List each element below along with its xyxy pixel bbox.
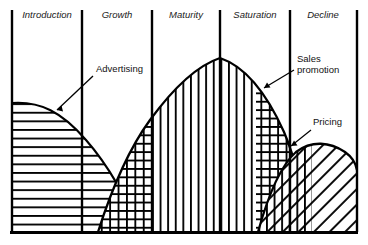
pricing-label: Pricing <box>313 116 342 127</box>
sales-promotion-label-line1: Sales <box>297 53 321 64</box>
stage-label-introduction: Introduction <box>22 9 72 20</box>
stage-label-decline: Decline <box>307 9 339 20</box>
sales-promotion-label-line2: promotion <box>297 64 339 75</box>
stage-label-growth: Growth <box>102 9 133 20</box>
stage-label-maturity: Maturity <box>169 9 204 20</box>
product-life-cycle-figure: Introduction Growth Maturity Saturation … <box>0 0 368 245</box>
advertising-label: Advertising <box>96 63 143 74</box>
stage-label-saturation: Saturation <box>233 9 276 20</box>
